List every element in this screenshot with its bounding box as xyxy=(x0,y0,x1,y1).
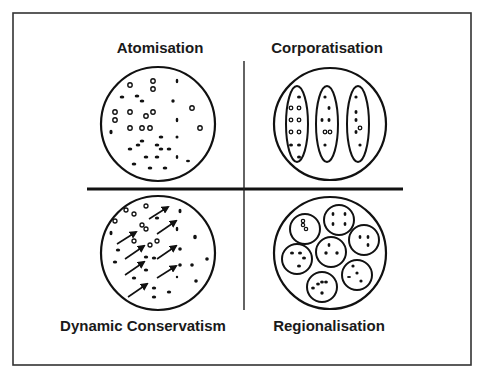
dynamic-conservatism-figure xyxy=(101,196,215,310)
quadrant-title-atomisation: Atomisation xyxy=(117,40,204,55)
quadrant-title-regionalisation: Regionalisation xyxy=(273,318,385,333)
quadrant-title-dynamic-conservatism: Dynamic Conservatism xyxy=(60,318,226,333)
regionalisation-figure xyxy=(274,197,386,309)
corporatisation-figure xyxy=(274,68,386,180)
quadrant-title-corporatisation: Corporatisation xyxy=(271,40,383,55)
atomisation-figure xyxy=(101,67,215,181)
